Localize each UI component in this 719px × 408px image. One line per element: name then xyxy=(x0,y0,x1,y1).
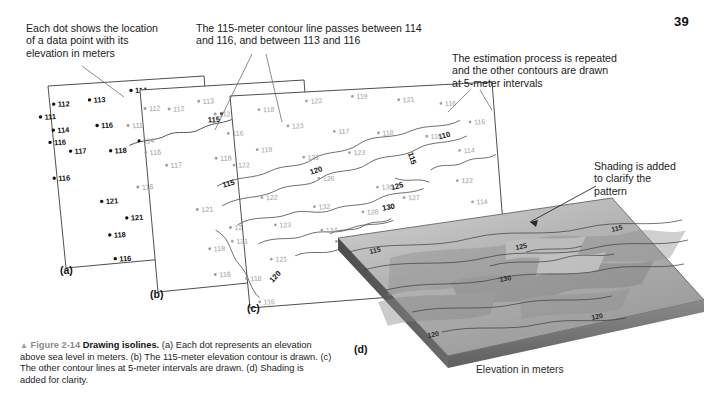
svg-text:119: 119 xyxy=(261,146,273,154)
svg-text:126: 126 xyxy=(323,174,335,182)
svg-text:116: 116 xyxy=(54,137,66,147)
svg-text:114: 114 xyxy=(431,132,443,140)
svg-text:117: 117 xyxy=(170,160,182,170)
svg-text:121: 121 xyxy=(308,153,320,161)
elevation-legend-label: Elevation in meters xyxy=(476,364,564,375)
svg-text:113: 113 xyxy=(93,95,105,105)
svg-text:112: 112 xyxy=(149,103,161,113)
svg-text:121: 121 xyxy=(236,237,248,245)
svg-text:116: 116 xyxy=(445,100,457,108)
svg-text:114: 114 xyxy=(463,147,475,155)
panel-label-a: (a) xyxy=(60,264,73,276)
svg-text:114: 114 xyxy=(57,125,70,135)
annotation-estimation: The estimation process is repeated and t… xyxy=(452,52,617,89)
svg-text:116: 116 xyxy=(232,129,244,137)
page-number: 39 xyxy=(674,14,689,29)
svg-text:117: 117 xyxy=(74,146,86,156)
svg-text:112: 112 xyxy=(219,110,231,118)
panel-label-b: (b) xyxy=(150,288,163,300)
svg-text:121: 121 xyxy=(402,96,414,104)
svg-text:115: 115 xyxy=(221,178,236,190)
svg-text:122: 122 xyxy=(310,97,322,105)
svg-text:117: 117 xyxy=(338,128,350,136)
svg-text:116: 116 xyxy=(149,148,161,158)
annotation-115-contour: The 115-meter contour line passes betwee… xyxy=(196,22,422,47)
figure-caption: ▲ Figure 2-14 Drawing isolines. (a) Each… xyxy=(20,340,332,386)
caption-title: Drawing isolines. xyxy=(83,340,159,350)
svg-text:118: 118 xyxy=(382,129,394,137)
svg-text:119: 119 xyxy=(356,92,368,100)
figure-page: 39 112 113 114 116 111 117 114 116 117 1… xyxy=(0,0,719,408)
svg-text:132: 132 xyxy=(318,203,330,211)
svg-text:130: 130 xyxy=(381,183,393,191)
svg-text:123: 123 xyxy=(353,149,365,157)
svg-text:121: 121 xyxy=(275,255,287,263)
svg-text:116: 116 xyxy=(58,173,70,183)
svg-text:116: 116 xyxy=(142,182,154,192)
svg-text:116: 116 xyxy=(264,298,276,306)
svg-text:112: 112 xyxy=(173,104,185,114)
annotation-each-dot: Each dot shows the location of a data po… xyxy=(26,22,158,59)
svg-text:116: 116 xyxy=(474,118,486,126)
svg-text:123: 123 xyxy=(279,221,291,229)
svg-text:118: 118 xyxy=(263,106,275,114)
svg-text:111: 111 xyxy=(132,121,143,131)
panel-label-d: (d) xyxy=(354,343,367,355)
svg-text:123: 123 xyxy=(292,122,304,130)
svg-text:112: 112 xyxy=(57,99,69,109)
svg-text:122: 122 xyxy=(238,161,250,169)
caption-triangle-icon: ▲ xyxy=(20,341,28,350)
svg-text:114: 114 xyxy=(143,136,155,146)
caption-figure-number: Figure 2-14 xyxy=(31,340,81,350)
svg-text:122: 122 xyxy=(266,194,278,202)
svg-text:111: 111 xyxy=(44,112,56,122)
panel-d-shaded-relief-block[interactable]: 115 125 130 120 120 115 xyxy=(330,196,710,381)
panel-label-c: (c) xyxy=(247,302,260,314)
annotation-shading: Shading is added to clarify the pattern xyxy=(594,160,676,197)
svg-text:118: 118 xyxy=(250,275,262,283)
svg-text:122: 122 xyxy=(461,177,473,185)
